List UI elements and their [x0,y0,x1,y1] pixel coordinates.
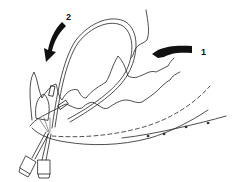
wire-loop-outer [52,19,136,128]
connector-left [20,156,36,174]
wire-loop-inner [55,23,132,127]
arrow-2-label: 2 [66,13,71,22]
upper-teeth [30,56,174,120]
arrow-1-label: 1 [201,48,206,57]
mandible-line [122,116,226,138]
tube-left [32,132,46,158]
illustration-drawing [0,0,239,182]
arrow-2-icon [44,22,66,62]
snout-outline [131,10,149,58]
arrow-1-icon [152,46,192,58]
dashed-line [52,86,210,137]
connector-right [38,160,50,174]
